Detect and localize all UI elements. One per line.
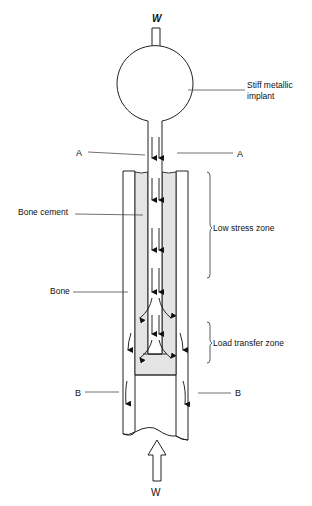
- implant-label-line2: implant: [247, 91, 275, 101]
- bone-label: Bone: [50, 286, 70, 296]
- implant-load-diagram: W: [0, 0, 312, 506]
- section-b-left: B: [75, 388, 81, 398]
- bottom-load-label: W: [151, 487, 161, 498]
- section-a-right: A: [237, 149, 243, 159]
- zone-braces: [207, 172, 212, 363]
- load-transfer-zone-label: Load transfer zone: [213, 338, 284, 348]
- bone-cement-label: Bone cement: [18, 207, 69, 217]
- section-a-left: A: [76, 148, 82, 158]
- low-stress-zone-label: Low stress zone: [213, 223, 275, 233]
- top-load-label: W: [152, 13, 163, 24]
- implant-label-line1: Stiff metallic: [247, 80, 293, 90]
- bottom-load-arrow: [148, 440, 166, 481]
- section-b-right: B: [235, 388, 241, 398]
